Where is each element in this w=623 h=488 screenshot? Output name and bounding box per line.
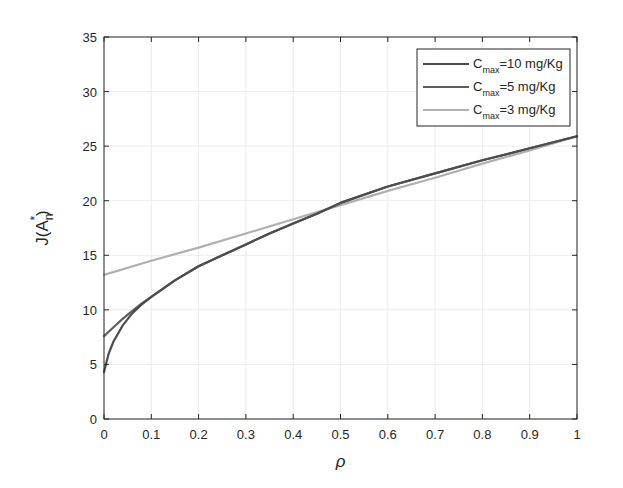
y-tick-label: 5 xyxy=(90,357,97,372)
legend: Cmax=10 mg/KgCmax=5 mg/KgCmax=3 mg/Kg xyxy=(417,49,570,126)
x-tick-label: 0.1 xyxy=(142,427,160,442)
x-tick-label: 0.3 xyxy=(237,427,255,442)
y-axis-label: J(An*) xyxy=(28,210,56,246)
y-tick-label: 10 xyxy=(83,303,97,318)
x-tick-label: 0.9 xyxy=(521,427,539,442)
x-tick-label: 0 xyxy=(100,427,107,442)
x-axis-label: ρ xyxy=(335,452,346,471)
x-tick-label: 0.4 xyxy=(284,427,302,442)
x-tick-label: 0.8 xyxy=(473,427,491,442)
y-tick-label: 0 xyxy=(90,412,97,427)
y-axis-label-base: J(A xyxy=(33,220,52,246)
y-tick-label: 25 xyxy=(83,139,97,154)
x-tick-label: 0.7 xyxy=(426,427,444,442)
x-tick-label: 1 xyxy=(573,427,580,442)
line-chart: 00.10.20.30.40.50.60.70.80.91 0510152025… xyxy=(0,0,623,488)
y-tick-label: 30 xyxy=(83,85,97,100)
x-tick-label: 0.6 xyxy=(379,427,397,442)
y-tick-label: 35 xyxy=(83,30,97,45)
y-tick-label: 15 xyxy=(83,248,97,263)
y-tick-label: 20 xyxy=(83,194,97,209)
x-tick-label: 0.5 xyxy=(331,427,349,442)
y-axis-label-close: ) xyxy=(33,210,52,216)
x-tick-label: 0.2 xyxy=(190,427,208,442)
